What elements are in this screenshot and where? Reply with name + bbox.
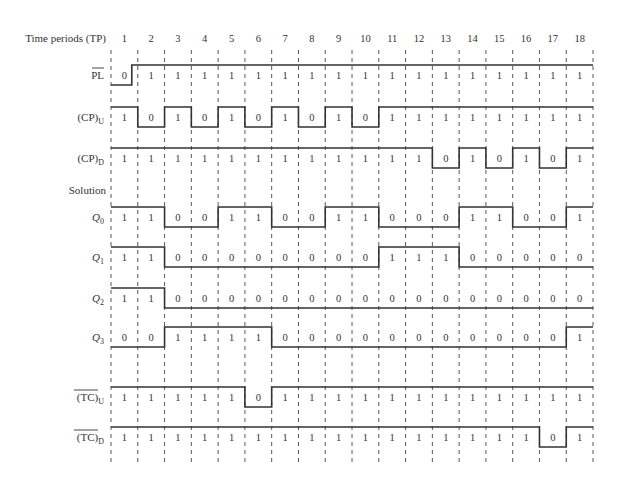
signal-value: 1 [497, 392, 502, 403]
signal-value: 1 [202, 153, 207, 164]
signal-rows: PL011111111111111111(CP)U101010101011111… [74, 65, 593, 447]
signal-value: 1 [202, 392, 207, 403]
signal-value: 0 [470, 332, 475, 343]
signal-value: 1 [416, 392, 421, 403]
signal-value: 0 [497, 153, 502, 164]
signal-value: 1 [202, 432, 207, 443]
signal-value: 0 [149, 332, 154, 343]
signal-value: 1 [470, 392, 475, 403]
signal-value: 0 [175, 212, 180, 223]
signal-value: 1 [309, 153, 314, 164]
signal-value: 1 [149, 212, 154, 223]
signal-value: 1 [443, 112, 448, 123]
signal-value: 1 [470, 212, 475, 223]
signal-value: 0 [256, 293, 261, 304]
signal-value: 1 [470, 112, 475, 123]
signal-value: 0 [470, 293, 475, 304]
signal-value: 1 [416, 112, 421, 123]
signal-value: 0 [390, 212, 395, 223]
signal-value: 0 [443, 293, 448, 304]
signal-label: (CP)D [77, 152, 104, 167]
signal-value: 0 [470, 252, 475, 263]
time-period-label: 10 [360, 33, 371, 44]
signal-value: 1 [443, 252, 448, 263]
signal-label: (CP)U [77, 111, 104, 126]
signal-value: 1 [497, 432, 502, 443]
signal-value: 1 [336, 392, 341, 403]
signal-value: 1 [497, 70, 502, 81]
signal-row-cp-d: (CP)D111111111111010101 [77, 148, 593, 168]
signal-value: 0 [229, 293, 234, 304]
signal-value: 1 [363, 212, 368, 223]
signal-label: (TC)D [77, 431, 104, 446]
signal-value: 0 [443, 153, 448, 164]
signal-value: 1 [523, 432, 528, 443]
signal-value: 1 [149, 432, 154, 443]
signal-value: 1 [416, 252, 421, 263]
signal-value: 0 [550, 212, 555, 223]
signal-label: PL [91, 69, 104, 81]
time-period-label: 3 [175, 33, 180, 44]
signal-value: 1 [390, 392, 395, 403]
signal-row-tc-d: (TC)D111111111111111101 [74, 427, 593, 447]
time-period-label: 1 [122, 33, 127, 44]
signal-value: 0 [363, 252, 368, 263]
signal-value: 0 [416, 332, 421, 343]
signal-value: 0 [309, 332, 314, 343]
signal-value: 1 [577, 332, 582, 343]
signal-value: 1 [149, 252, 154, 263]
signal-value: 1 [282, 432, 287, 443]
signal-value: 1 [282, 392, 287, 403]
signal-value: 1 [202, 70, 207, 81]
signal-value: 0 [336, 252, 341, 263]
signal-value: 0 [550, 432, 555, 443]
signal-value: 1 [363, 432, 368, 443]
signal-value: 0 [363, 293, 368, 304]
signal-value: 0 [202, 252, 207, 263]
signal-label: Q0 [92, 211, 104, 226]
signal-value: 0 [175, 293, 180, 304]
signal-value: 0 [577, 293, 582, 304]
signal-value: 1 [523, 392, 528, 403]
signal-value: 1 [443, 70, 448, 81]
signal-value: 1 [470, 70, 475, 81]
signal-value: 1 [390, 252, 395, 263]
signal-value: 0 [282, 252, 287, 263]
signal-value: 0 [443, 332, 448, 343]
signal-value: 1 [149, 293, 154, 304]
signal-value: 0 [282, 212, 287, 223]
signal-value: 0 [202, 293, 207, 304]
signal-value: 1 [256, 432, 261, 443]
signal-value: 1 [282, 153, 287, 164]
signal-value: 1 [122, 432, 127, 443]
signal-value: 0 [309, 212, 314, 223]
signal-value: 0 [309, 252, 314, 263]
signal-value: 1 [550, 70, 555, 81]
signal-value: 0 [523, 293, 528, 304]
signal-value: 1 [229, 112, 234, 123]
time-period-label: 7 [282, 33, 287, 44]
signal-value: 1 [256, 332, 261, 343]
signal-value: 1 [122, 252, 127, 263]
time-period-label: 6 [256, 33, 261, 44]
signal-value: 1 [256, 212, 261, 223]
signal-value: 1 [229, 153, 234, 164]
time-periods-label: Time periods (TP) [25, 32, 106, 45]
signal-value: 0 [336, 293, 341, 304]
signal-value: 1 [363, 153, 368, 164]
signal-value: 1 [229, 332, 234, 343]
signal-value: 1 [309, 432, 314, 443]
signal-value: 1 [443, 432, 448, 443]
time-period-label: 2 [149, 33, 154, 44]
time-period-label: 8 [309, 33, 314, 44]
signal-value: 1 [577, 212, 582, 223]
signal-value: 1 [470, 153, 475, 164]
signal-value: 1 [122, 112, 127, 123]
signal-value: 0 [363, 332, 368, 343]
signal-value: 0 [390, 332, 395, 343]
signal-value: 0 [416, 212, 421, 223]
signal-value: 1 [336, 432, 341, 443]
signal-value: 0 [550, 332, 555, 343]
signal-value: 0 [256, 252, 261, 263]
time-period-label: 5 [229, 33, 234, 44]
